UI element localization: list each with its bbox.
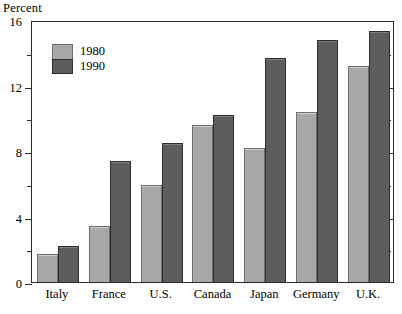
bar-1990-UK xyxy=(369,31,390,282)
y-axis-tick-label: 4 xyxy=(16,211,22,226)
y-tick-major xyxy=(25,284,32,285)
bar-1990-Italy xyxy=(58,246,79,282)
bar-group xyxy=(84,161,136,282)
y-axis-tick-label: 16 xyxy=(10,15,23,30)
legend-label-1990: 1990 xyxy=(80,59,105,74)
x-axis-label: Canada xyxy=(194,287,231,302)
bar-1990-France xyxy=(110,161,131,282)
bar-1990-Germany xyxy=(317,40,338,282)
y-tick-minor xyxy=(27,186,32,187)
bar-1980-UK xyxy=(348,66,369,282)
x-axis-label: Japan xyxy=(250,287,278,302)
y-tick-minor xyxy=(27,120,32,121)
x-axis-label: Italy xyxy=(45,287,68,302)
bar-group xyxy=(291,40,343,282)
bar-1980-US xyxy=(141,185,162,282)
bar-1990-Canada xyxy=(213,115,234,282)
y-axis-tick-label: 12 xyxy=(10,80,23,95)
y-axis-tick-label: 8 xyxy=(16,146,22,161)
y-tick-major xyxy=(25,219,32,220)
bar-1990-Japan xyxy=(265,58,286,282)
bar-1990-US xyxy=(162,143,183,282)
legend-item-1990: 1990 xyxy=(52,59,105,74)
legend-label-1980: 1980 xyxy=(80,44,105,59)
bar-group xyxy=(188,115,240,282)
y-tick-minor xyxy=(27,55,32,56)
y-axis-tick-label: 0 xyxy=(16,277,22,292)
bar-group xyxy=(239,58,291,282)
legend-item-1980: 1980 xyxy=(52,44,105,59)
bar-1980-Japan xyxy=(244,148,265,282)
legend-swatch-1980 xyxy=(52,44,73,59)
x-axis-label: Germany xyxy=(293,287,340,302)
bar-1980-Canada xyxy=(192,125,213,282)
bar-chart: Percent 0481216 ItalyFranceU.S.CanadaJap… xyxy=(0,0,402,314)
bar-1980-Italy xyxy=(37,254,58,282)
x-axis-label: France xyxy=(92,287,126,302)
bar-group xyxy=(136,143,188,282)
legend: 1980 1990 xyxy=(52,44,105,74)
bar-group xyxy=(343,31,395,282)
bar-1980-Germany xyxy=(296,112,317,282)
y-tick-major xyxy=(25,88,32,89)
bar-group xyxy=(32,246,84,282)
bar-1980-France xyxy=(89,226,110,282)
x-axis-label: U.K. xyxy=(356,287,380,302)
y-tick-major xyxy=(25,153,32,154)
x-axis-label: U.S. xyxy=(150,287,172,302)
legend-swatch-1990 xyxy=(52,59,73,74)
